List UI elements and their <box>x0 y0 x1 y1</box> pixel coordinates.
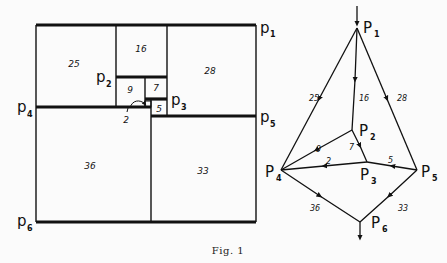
terminal-p3: p 3 <box>171 91 187 112</box>
svg-text:p: p <box>260 108 270 126</box>
terminal-p6: p 6 <box>17 212 33 233</box>
svg-text:5: 5 <box>270 120 276 129</box>
square-label-7: 7 <box>153 83 159 93</box>
square-label-5: 5 <box>156 104 162 114</box>
svg-text:4: 4 <box>27 110 33 119</box>
figure-canvas: 25 16 28 9 7 5 2 36 33 p 1 p 2 p 3 p 4 p… <box>0 0 447 263</box>
svg-text:3: 3 <box>181 103 187 112</box>
svg-text:P: P <box>421 163 430 181</box>
square-label-25: 25 <box>68 59 80 69</box>
edge-label-36: 36 <box>310 204 320 213</box>
edge-label-33: 33 <box>398 204 408 213</box>
svg-text:6: 6 <box>27 224 33 233</box>
edge-p1-p2 <box>352 28 357 130</box>
square-label-2: 2 <box>123 115 129 125</box>
edge-label-7: 7 <box>349 143 355 152</box>
svg-text:2: 2 <box>370 133 376 142</box>
node-p4: P4 <box>265 163 282 183</box>
node-p2: P2 <box>359 122 376 142</box>
svg-text:p: p <box>171 91 181 109</box>
svg-text:1: 1 <box>374 30 380 39</box>
svg-text:p: p <box>17 98 27 116</box>
edge-label-16: 16 <box>359 94 369 103</box>
svg-text:P: P <box>363 19 372 37</box>
node-p5: P5 <box>421 163 438 183</box>
terminal-p2: p 2 <box>96 68 112 89</box>
square-label-28: 28 <box>204 66 216 76</box>
svg-text:p: p <box>260 19 270 37</box>
edge-label-28: 28 <box>397 94 407 103</box>
svg-text:6: 6 <box>382 225 388 234</box>
svg-text:1: 1 <box>270 30 276 39</box>
network-graph <box>281 6 417 238</box>
edge-p4-p6 <box>281 170 360 222</box>
square-label-9: 9 <box>127 85 133 95</box>
svg-text:P: P <box>371 214 380 232</box>
svg-text:p: p <box>17 212 27 230</box>
svg-text:3: 3 <box>371 177 377 186</box>
svg-text:4: 4 <box>276 174 282 183</box>
square-label-16: 16 <box>135 44 147 54</box>
squared-rectangle: 25 16 28 9 7 5 2 36 33 p 1 p 2 p 3 p 4 p… <box>17 19 276 233</box>
square-label-36: 36 <box>84 161 96 171</box>
svg-text:P: P <box>360 166 369 184</box>
edge-label-5: 5 <box>388 156 393 165</box>
svg-text:2: 2 <box>106 80 112 89</box>
square-label-33: 33 <box>197 166 209 176</box>
svg-text:P: P <box>265 163 274 181</box>
terminal-p5: p 5 <box>260 108 276 129</box>
svg-text:P: P <box>359 122 368 140</box>
node-labels: P1 P2 P3 P4 P5 P6 <box>265 19 438 234</box>
edge-label-9: 9 <box>316 145 321 154</box>
figure-caption: Fig. 1 <box>212 245 244 256</box>
svg-text:5: 5 <box>432 174 438 183</box>
svg-text:p: p <box>96 68 106 86</box>
node-p1: P1 <box>363 19 380 39</box>
edge-labels: 25 16 28 9 7 2 5 36 33 <box>309 94 408 213</box>
node-p3: P3 <box>360 166 377 186</box>
terminal-p1: p 1 <box>260 19 276 39</box>
edge-label-2: 2 <box>326 157 331 166</box>
node-p6: P6 <box>371 214 388 234</box>
terminal-p4: p 4 <box>17 98 33 119</box>
edge-label-25: 25 <box>309 94 319 103</box>
